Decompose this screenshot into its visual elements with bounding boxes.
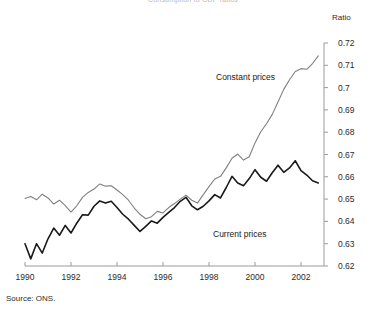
y-axis-tick-label: 0.62 (338, 261, 355, 271)
y-axis-tick-label: 0.68 (338, 127, 355, 137)
y-axis-tick-label: 0.67 (338, 150, 355, 160)
consumption-gdp-ratio-chart: Consumption to GDP ratios Ratio 0.620.63… (0, 0, 386, 315)
x-axis-tick-label: 2002 (292, 272, 311, 282)
x-axis-tick-label: 1990 (16, 272, 35, 282)
y-axis-tick-label: 0.64 (338, 216, 355, 226)
plot-area (0, 0, 386, 315)
x-axis-tick-label: 1992 (62, 272, 81, 282)
x-axis-tick-label: 1998 (200, 272, 219, 282)
y-axis-tick-label: 0.65 (338, 194, 355, 204)
y-axis-tick-label: 0.66 (338, 172, 355, 182)
y-axis-tick-label: 0.7 (338, 83, 350, 93)
series-label-constant-prices: Constant prices (216, 72, 275, 82)
y-axis-tick-label: 0.71 (338, 60, 355, 70)
y-axis-tick-label: 0.63 (338, 239, 355, 249)
series-label-current-prices: Current prices (213, 229, 266, 239)
y-axis-tick-label: 0.72 (338, 38, 355, 48)
y-axis-tick-label: 0.69 (338, 105, 355, 115)
source-note: Source: ONS. (6, 294, 55, 303)
x-axis-tick-label: 1994 (108, 272, 127, 282)
x-axis-tick-label: 2000 (246, 272, 265, 282)
x-axis-tick-label: 1996 (154, 272, 173, 282)
